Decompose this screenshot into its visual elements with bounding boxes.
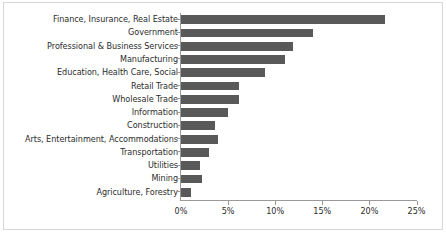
x-axis-tick-label: 15%: [302, 206, 342, 217]
x-axis-line: [180, 200, 417, 201]
x-axis-tick-label: 20%: [349, 206, 389, 217]
bar: [181, 82, 239, 91]
x-axis-tick: [322, 201, 323, 205]
x-axis-tick: [417, 201, 418, 205]
chart-row: Construction: [0, 120, 446, 133]
x-axis-tick: [275, 201, 276, 205]
chart-row: Agriculture, Forestry: [0, 187, 446, 200]
category-label: Utilities: [0, 160, 178, 171]
category-label: Agriculture, Forestry: [0, 187, 178, 198]
category-label: Retail Trade: [0, 81, 178, 92]
category-label: Mining: [0, 173, 178, 184]
x-axis-tick-label: 25%: [397, 206, 437, 217]
category-label: Finance, Insurance, Real Estate: [0, 14, 178, 25]
x-axis-tick-label: 0%: [161, 206, 201, 217]
chart-row: Manufacturing: [0, 54, 446, 67]
chart-row: Wholesale Trade: [0, 94, 446, 107]
bar-chart: Finance, Insurance, Real EstateGovernmen…: [0, 0, 446, 233]
x-axis-tick: [369, 201, 370, 205]
bar: [181, 15, 385, 24]
chart-row: Education, Health Care, Social: [0, 67, 446, 80]
bar: [181, 68, 265, 77]
x-axis-tick-label: 5%: [208, 206, 248, 217]
bar: [181, 29, 313, 38]
category-label: Arts, Entertainment, Accommodations: [0, 134, 178, 145]
category-label: Information: [0, 107, 178, 118]
category-label: Wholesale Trade: [0, 94, 178, 105]
bar: [181, 108, 228, 117]
category-label: Education, Health Care, Social: [0, 67, 178, 78]
bar: [181, 95, 239, 104]
x-axis-tick-label: 10%: [255, 206, 295, 217]
bar: [181, 135, 218, 144]
category-label: Transportation: [0, 147, 178, 158]
chart-row: Transportation: [0, 147, 446, 160]
bar: [181, 188, 191, 197]
bar: [181, 121, 215, 130]
chart-row: Utilities: [0, 160, 446, 173]
chart-row: Government: [0, 27, 446, 40]
chart-row: Information: [0, 107, 446, 120]
bar: [181, 175, 202, 184]
category-label: Professional & Business Services: [0, 41, 178, 52]
plot-area: Finance, Insurance, Real EstateGovernmen…: [0, 0, 446, 233]
chart-row: Mining: [0, 173, 446, 186]
bar: [181, 148, 209, 157]
bar: [181, 42, 293, 51]
bar: [181, 161, 200, 170]
category-label: Government: [0, 27, 178, 38]
x-axis-tick: [228, 201, 229, 205]
category-label: Manufacturing: [0, 54, 178, 65]
chart-row: Retail Trade: [0, 81, 446, 94]
category-label: Construction: [0, 120, 178, 131]
chart-row: Arts, Entertainment, Accommodations: [0, 134, 446, 147]
chart-row: Finance, Insurance, Real Estate: [0, 14, 446, 27]
chart-row: Professional & Business Services: [0, 41, 446, 54]
bar: [181, 55, 285, 64]
y-axis-line: [180, 13, 181, 201]
